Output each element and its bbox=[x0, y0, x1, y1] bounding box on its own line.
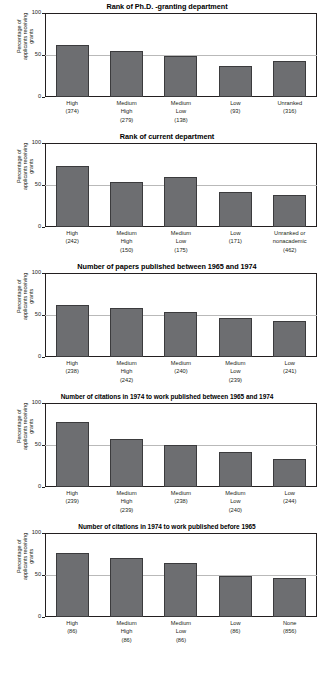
bar bbox=[56, 45, 89, 97]
x-axis-label: Low(244) bbox=[264, 489, 316, 514]
x-axis-label: Medium(238) bbox=[155, 489, 207, 514]
x-axis-label-line: (86) bbox=[155, 636, 207, 644]
x-axis-label-line: Low bbox=[209, 367, 261, 375]
x-axis-label-line: High bbox=[46, 99, 98, 107]
bar bbox=[219, 66, 252, 97]
y-tick-label: 50 bbox=[35, 52, 41, 58]
bar-series bbox=[45, 13, 317, 97]
bar bbox=[219, 192, 252, 227]
x-axis-label-line: Unranked or bbox=[264, 229, 316, 237]
x-axis-label-line: Medium bbox=[209, 359, 261, 367]
x-axis-label-line: (239) bbox=[209, 376, 261, 384]
y-axis-title-host: Percentage of applicants receiving grant… bbox=[18, 273, 32, 357]
x-axis-label: High(374) bbox=[46, 99, 98, 124]
x-axis-label-line: (86) bbox=[46, 627, 98, 635]
bar-series bbox=[45, 143, 317, 227]
bar bbox=[56, 166, 89, 227]
x-axis-label-line: Low bbox=[155, 237, 207, 245]
x-axis-labels: High(242)MediumHigh(150)MediumLow(175)Lo… bbox=[45, 229, 317, 254]
x-axis-label: MediumLow(240) bbox=[209, 489, 261, 514]
y-axis: 100500 bbox=[34, 273, 45, 357]
plot-area bbox=[45, 143, 317, 227]
chart-panel-3: Number of papers published between 1965 … bbox=[0, 260, 334, 390]
y-tick-mark bbox=[42, 487, 45, 488]
x-axis-label-line: (462) bbox=[264, 246, 316, 254]
x-axis-label-line: (93) bbox=[209, 107, 261, 115]
bar bbox=[164, 445, 197, 487]
x-axis-label-line: (316) bbox=[264, 107, 316, 115]
x-axis-label-line: nonacademic bbox=[264, 237, 316, 245]
bar bbox=[110, 182, 143, 227]
x-axis-label: MediumHigh(86) bbox=[101, 619, 153, 644]
x-axis-label-line: Low bbox=[209, 619, 261, 627]
bar bbox=[273, 195, 306, 227]
chart-title: Rank of Ph.D. -granting department bbox=[0, 2, 334, 11]
plot-area bbox=[45, 13, 317, 97]
x-axis-label-line: (175) bbox=[155, 246, 207, 254]
x-axis-label-line: Medium bbox=[101, 229, 153, 237]
x-axis-label-line: (238) bbox=[46, 367, 98, 375]
x-axis-label: High(86) bbox=[46, 619, 98, 644]
x-axis-label-line: (238) bbox=[155, 497, 207, 505]
x-axis-label: MediumLow(138) bbox=[155, 99, 207, 124]
x-axis-label: Low(241) bbox=[264, 359, 316, 384]
x-axis-label-line: (86) bbox=[209, 627, 261, 635]
bar bbox=[56, 305, 89, 357]
bar-series bbox=[45, 533, 317, 617]
x-axis-label-line: Low bbox=[209, 99, 261, 107]
plot-area bbox=[45, 403, 317, 487]
x-axis-label-line: (244) bbox=[264, 497, 316, 505]
x-axis-label-line: Medium bbox=[155, 359, 207, 367]
y-tick-mark bbox=[42, 617, 45, 618]
x-axis-label-line: (374) bbox=[46, 107, 98, 115]
bar bbox=[164, 312, 197, 357]
x-axis-label-line: Low bbox=[264, 359, 316, 367]
x-axis-label-line: High bbox=[46, 229, 98, 237]
bar bbox=[110, 308, 143, 357]
chart-title: Number of papers published between 1965 … bbox=[0, 262, 334, 271]
x-axis-label-line: (239) bbox=[101, 506, 153, 514]
y-axis-title: Percentage of applicants receiving grant… bbox=[16, 398, 35, 454]
bar bbox=[110, 558, 143, 617]
bar bbox=[219, 576, 252, 617]
y-axis-title: Percentage of applicants receiving grant… bbox=[16, 138, 35, 194]
x-axis-label: Medium(240) bbox=[155, 359, 207, 384]
x-axis-label: Low(86) bbox=[209, 619, 261, 644]
y-tick-label: 100 bbox=[32, 10, 41, 16]
x-axis-label: MediumHigh(242) bbox=[101, 359, 153, 384]
x-axis-label: MediumHigh(279) bbox=[101, 99, 153, 124]
bar bbox=[219, 452, 252, 487]
x-axis-label-line: (239) bbox=[46, 497, 98, 505]
x-axis-label-line: Low bbox=[264, 489, 316, 497]
y-tick-label: 50 bbox=[35, 312, 41, 318]
bar bbox=[273, 459, 306, 487]
y-tick-label: 0 bbox=[38, 224, 41, 230]
bar bbox=[110, 439, 143, 487]
x-axis-label: Low(171) bbox=[209, 229, 261, 254]
x-axis-label: MediumLow(175) bbox=[155, 229, 207, 254]
y-tick-label: 0 bbox=[38, 484, 41, 490]
y-tick-label: 50 bbox=[35, 442, 41, 448]
bar bbox=[164, 177, 197, 227]
x-axis-label-line: High bbox=[46, 619, 98, 627]
x-axis-label-line: Medium bbox=[209, 489, 261, 497]
chart-panel-4: Number of citations in 1974 to work publ… bbox=[0, 390, 334, 520]
y-axis: 100500 bbox=[34, 143, 45, 227]
y-axis: 100500 bbox=[34, 13, 45, 97]
x-axis-label-line: (138) bbox=[155, 116, 207, 124]
y-axis-title-host: Percentage of applicants receiving grant… bbox=[18, 403, 32, 487]
x-axis-label-line: High bbox=[101, 627, 153, 635]
x-axis-label-line: Medium bbox=[155, 229, 207, 237]
x-axis-label: MediumHigh(239) bbox=[101, 489, 153, 514]
x-axis-label: High(239) bbox=[46, 489, 98, 514]
y-tick-label: 100 bbox=[32, 530, 41, 536]
bar bbox=[273, 61, 306, 97]
y-tick-label: 0 bbox=[38, 354, 41, 360]
x-axis-label-line: Medium bbox=[155, 99, 207, 107]
bar bbox=[273, 321, 306, 357]
x-axis-label: Low(93) bbox=[209, 99, 261, 124]
y-tick-label: 0 bbox=[38, 614, 41, 620]
x-axis-label-line: Medium bbox=[155, 619, 207, 627]
plot-area bbox=[45, 273, 317, 357]
y-tick-label: 100 bbox=[32, 400, 41, 406]
